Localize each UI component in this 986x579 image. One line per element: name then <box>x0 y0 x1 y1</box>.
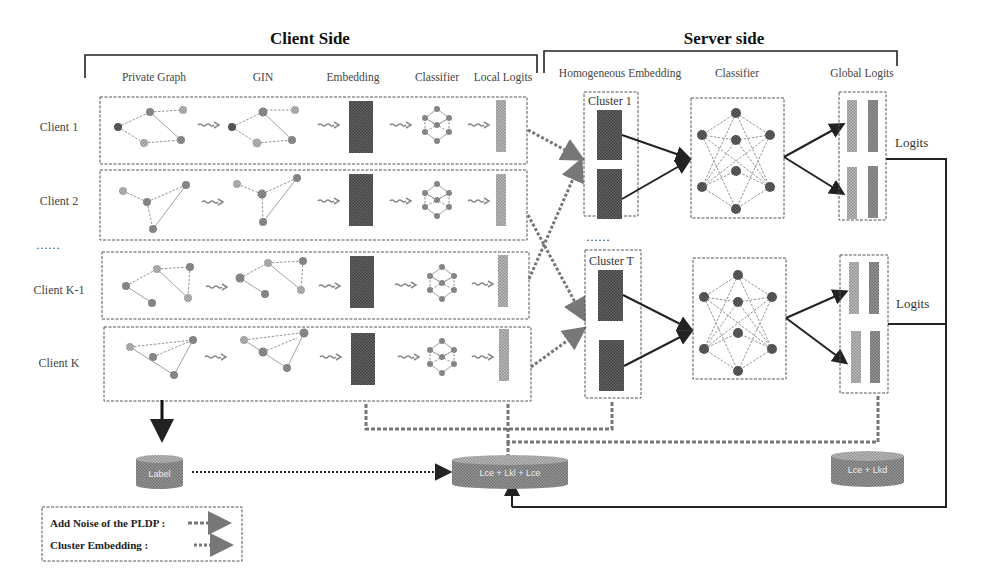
server-classifier-t <box>693 258 786 379</box>
client-row-2 <box>100 170 527 240</box>
cluster-ellipsis: …… <box>586 230 610 244</box>
client-ellipsis: …… <box>36 238 60 252</box>
client-2-label: Client 2 <box>40 194 78 208</box>
classifier-to-logits-arrows <box>784 125 845 362</box>
embedding-block <box>349 174 373 226</box>
local-logits-block <box>499 329 509 381</box>
col-global-logits: Global Logits <box>830 67 894 80</box>
col-gin: GIN <box>253 71 274 83</box>
col-homogeneous-embedding: Homogeneous Embedding <box>559 67 682 80</box>
loss-server-text: Lce + Lkd <box>848 465 887 475</box>
col-server-classifier: Classifier <box>715 67 759 79</box>
cluster-1-label: Cluster 1 <box>588 94 632 108</box>
cluster-t: Cluster T <box>585 250 641 398</box>
embedding-block <box>349 101 373 153</box>
legend: Add Noise of the PLDP : Cluster Embeddin… <box>42 507 242 561</box>
label-db-text: Label <box>148 469 170 479</box>
col-private-graph: Private Graph <box>122 71 186 84</box>
embedding-block <box>350 256 374 308</box>
loss-database-main: Lce + Lkl + Lce <box>452 455 568 489</box>
legend-cluster-label: Cluster Embedding : <box>50 539 148 551</box>
col-embedding: Embedding <box>326 71 379 84</box>
cluster-1: Cluster 1 <box>584 92 638 219</box>
cluster-embedding-arrows <box>528 130 583 367</box>
local-logits-block <box>496 174 506 226</box>
loss-main-text: Lce + Lkl + Lce <box>479 468 540 478</box>
cluster-t-label: Cluster T <box>589 254 634 268</box>
legend-noise-label: Add Noise of the PLDP : <box>50 517 165 529</box>
client-k-minus-1-label: Client K-1 <box>34 283 85 297</box>
logits-label-1: Logits <box>895 135 928 150</box>
global-logits-1 <box>839 92 886 220</box>
local-logits-block <box>498 255 508 307</box>
pldp-noise-lines <box>366 395 878 458</box>
pipeline-diagram: Client Side Server side Private Graph GI… <box>0 0 986 579</box>
embedding-block <box>351 333 375 385</box>
local-logits-block <box>496 100 506 152</box>
server-side-title: Server side <box>684 29 765 48</box>
logits-label-t: Logits <box>896 296 929 311</box>
client-row-k <box>104 327 531 401</box>
client-k-label: Client K <box>39 356 80 370</box>
server-classifier-1 <box>691 98 784 218</box>
client-row-1 <box>100 97 527 164</box>
client-side-title: Client Side <box>270 29 350 48</box>
col-local-logits: Local Logits <box>474 71 533 84</box>
loss-database-server: Lce + Lkd <box>831 451 904 487</box>
global-logits-t <box>840 255 888 393</box>
col-classifier: Classifier <box>415 71 459 83</box>
client-row-k-minus-1 <box>102 252 529 319</box>
label-database: Label <box>136 455 183 489</box>
client-1-label: Client 1 <box>40 120 78 134</box>
